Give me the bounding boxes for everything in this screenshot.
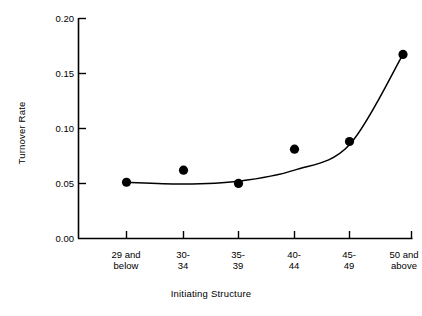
- x-tick-label-3: 40- 44: [263, 249, 325, 271]
- x-axis-ticks: [127, 231, 412, 239]
- x-tick-label-3-line1: 40-: [263, 249, 325, 260]
- x-tick-label-1-line2: 34: [152, 260, 214, 271]
- data-point-4: [345, 137, 354, 146]
- x-tick-label-4: 45- 49: [318, 249, 380, 271]
- data-point-3: [290, 145, 299, 154]
- x-tick-label-2-line1: 35-: [207, 249, 269, 260]
- y-axis-ticks: [79, 19, 87, 184]
- data-point-0: [122, 178, 131, 187]
- x-tick-label-5: 50 and above: [373, 249, 422, 271]
- x-tick-label-0: 29 and below: [95, 249, 157, 271]
- data-point-2: [234, 179, 243, 188]
- data-point-5: [398, 50, 407, 59]
- x-tick-label-4-line2: 49: [318, 260, 380, 271]
- x-tick-label-5-line1: 50 and: [373, 249, 422, 260]
- x-tick-label-0-line1: 29 and: [95, 249, 157, 260]
- x-tick-label-2-line2: 39: [207, 260, 269, 271]
- x-tick-label-0-line2: below: [95, 260, 157, 271]
- data-point-1: [179, 166, 188, 175]
- x-tick-label-2: 35- 39: [207, 249, 269, 271]
- x-tick-label-1-line1: 30-: [152, 249, 214, 260]
- data-point-markers: [122, 50, 408, 188]
- x-tick-label-1: 30- 34: [152, 249, 214, 271]
- x-tick-label-3-line2: 44: [263, 260, 325, 271]
- fitted-trend-curve: [127, 54, 404, 184]
- x-tick-label-5-line2: above: [373, 260, 422, 271]
- chart-figure: Turnover Rate 0.20 0.15 0.10 0.05 0.00: [0, 0, 422, 316]
- x-axis-title: Initiating Structure: [0, 288, 422, 299]
- x-tick-label-4-line1: 45-: [318, 249, 380, 260]
